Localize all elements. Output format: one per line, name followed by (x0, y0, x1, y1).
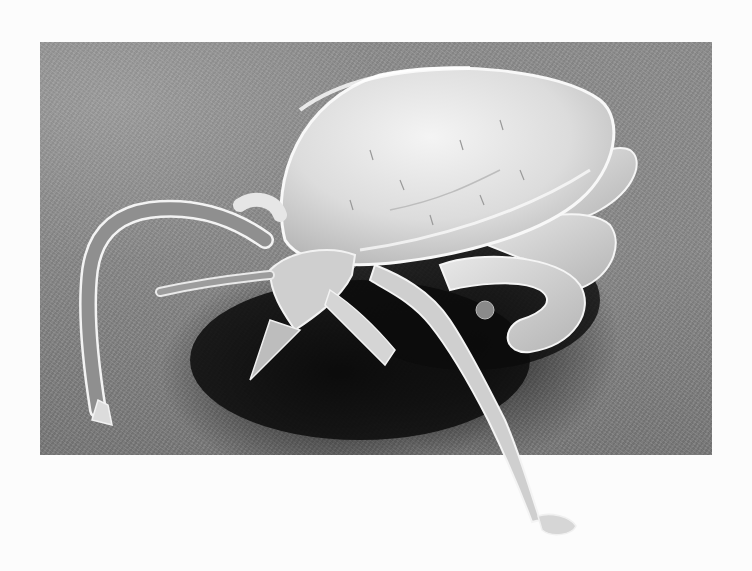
claw (538, 514, 576, 534)
page-background (0, 0, 752, 571)
debris-particle (476, 301, 494, 319)
tick-specimen (0, 0, 752, 571)
